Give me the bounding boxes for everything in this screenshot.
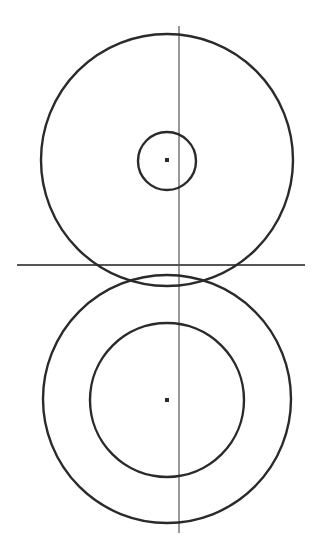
diagram-canvas	[0, 0, 316, 555]
bottom-center-point	[165, 398, 169, 402]
top-circle-group	[41, 34, 293, 286]
bottom-circle-group	[43, 275, 291, 523]
top-center-point	[165, 158, 169, 162]
